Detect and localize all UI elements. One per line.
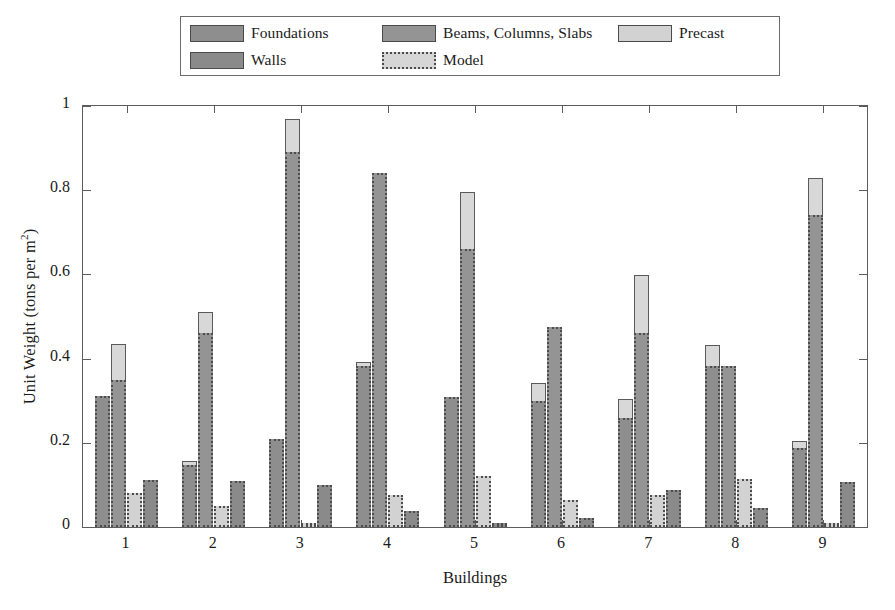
x-tick-mark-top <box>301 106 302 113</box>
bar-precast <box>650 495 665 527</box>
bar-beams <box>372 173 387 527</box>
y-tick-label: 0.6 <box>50 262 70 280</box>
legend-row-1: Foundations Beams, Columns, Slabs Precas… <box>181 20 779 46</box>
bar-foundations <box>618 418 633 527</box>
y-tick-label: 0.4 <box>50 347 70 365</box>
bar-walls <box>317 485 332 527</box>
x-axis-label: Buildings <box>82 568 868 588</box>
legend-entry-foundations: Foundations <box>190 20 329 46</box>
bar-precast <box>824 523 839 527</box>
bar-walls <box>492 523 507 527</box>
x-tick-mark-top <box>823 106 824 113</box>
x-tick-mark-top <box>475 106 476 113</box>
bar-precast <box>476 476 491 527</box>
bar-beams <box>721 366 736 527</box>
x-tick-label: 2 <box>193 534 233 552</box>
bar-foundations <box>444 397 459 527</box>
legend-entry-walls: Walls <box>190 47 286 73</box>
y-tick-mark-right <box>859 274 867 275</box>
bar-beams <box>460 249 475 527</box>
legend-entry-beams-columns-slabs: Beams, Columns, Slabs <box>382 20 592 46</box>
y-tick-mark <box>83 359 91 360</box>
chart-legend: Foundations Beams, Columns, Slabs Precas… <box>180 16 780 76</box>
y-axis-label-close: ) <box>20 229 39 235</box>
bar-beams <box>634 333 649 527</box>
x-tick-label: 3 <box>280 534 320 552</box>
bar-beams <box>808 215 823 527</box>
bar-precast <box>563 500 578 527</box>
legend-label-model: Model <box>443 52 484 68</box>
y-tick-mark <box>83 274 91 275</box>
x-tick-label: 7 <box>628 534 668 552</box>
y-tick-mark-right <box>859 527 867 528</box>
legend-label-foundations: Foundations <box>251 25 329 41</box>
bar-beams <box>285 152 300 527</box>
y-tick-label: 0.8 <box>50 178 70 196</box>
legend-entry-precast: Precast <box>618 20 724 46</box>
bar-foundations <box>182 465 197 527</box>
plot-inner <box>83 106 867 527</box>
bar-beams <box>111 380 126 527</box>
precast-swatch <box>618 25 672 42</box>
x-tick-mark-top <box>736 106 737 113</box>
plot-area <box>82 105 868 528</box>
bar-foundations <box>792 448 807 527</box>
bar-foundations <box>531 401 546 527</box>
bar-precast <box>127 493 142 527</box>
bar-walls <box>143 480 158 527</box>
x-tick-label: 4 <box>367 534 407 552</box>
y-axis-label-base: Unit Weight (tons per m <box>20 240 39 404</box>
y-axis-label: Unit Weight (tons per m2) <box>18 105 44 528</box>
model-swatch <box>382 52 436 69</box>
bar-precast <box>388 495 403 527</box>
bar-beams <box>198 333 213 527</box>
y-tick-mark <box>83 527 91 528</box>
legend-label-precast: Precast <box>679 25 724 41</box>
y-tick-mark <box>83 106 91 107</box>
bar-walls <box>840 482 855 527</box>
x-tick-mark-top <box>127 106 128 113</box>
bar-foundations <box>356 366 371 527</box>
bar-precast <box>214 506 229 527</box>
legend-row-2: Walls Model <box>181 47 779 73</box>
y-axis-label-exponent: 2 <box>18 234 30 240</box>
x-tick-mark-top <box>562 106 563 113</box>
x-tick-label: 9 <box>802 534 842 552</box>
y-tick-mark <box>83 190 91 191</box>
bar-walls <box>230 481 245 527</box>
walls-swatch <box>190 52 244 69</box>
bar-walls <box>666 490 681 527</box>
bar-foundations <box>269 439 284 527</box>
x-tick-mark-top <box>214 106 215 113</box>
bar-foundations <box>95 396 110 527</box>
y-tick-mark-right <box>859 190 867 191</box>
legend-label-beams-columns-slabs: Beams, Columns, Slabs <box>443 25 592 41</box>
legend-entry-model: Model <box>382 47 484 73</box>
bar-foundations <box>705 366 720 527</box>
foundations-swatch <box>190 25 244 42</box>
y-tick-label: 1 <box>62 94 70 112</box>
x-tick-mark-top <box>649 106 650 113</box>
legend-label-walls: Walls <box>251 52 286 68</box>
x-tick-mark-top <box>388 106 389 113</box>
bar-walls <box>404 511 419 527</box>
bar-precast <box>301 523 316 527</box>
beams-columns-slabs-swatch <box>382 25 436 42</box>
y-tick-mark-right <box>859 359 867 360</box>
bar-walls <box>579 518 594 527</box>
y-tick-mark-right <box>859 106 867 107</box>
x-tick-label: 6 <box>541 534 581 552</box>
y-tick-mark <box>83 443 91 444</box>
y-tick-label: 0 <box>62 515 70 533</box>
bar-beams <box>547 327 562 527</box>
y-tick-mark-right <box>859 443 867 444</box>
bar-precast <box>737 479 752 527</box>
y-tick-label: 0.2 <box>50 431 70 449</box>
x-tick-label: 1 <box>106 534 146 552</box>
bar-walls <box>753 508 768 527</box>
x-tick-label: 5 <box>454 534 494 552</box>
x-tick-label: 8 <box>715 534 755 552</box>
